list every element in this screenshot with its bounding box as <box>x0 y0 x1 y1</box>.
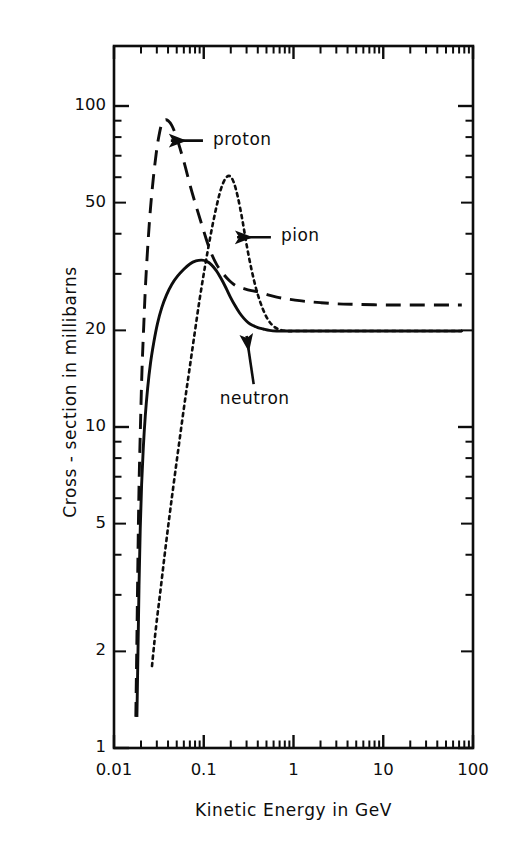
series-curve-neutron <box>137 260 462 717</box>
plot-area <box>0 0 519 860</box>
plot-frame <box>114 46 473 748</box>
series-curve-proton <box>136 120 462 717</box>
series-curve-pion <box>152 176 462 666</box>
figure-container: Cross - section in millibarns Kinetic En… <box>0 0 519 860</box>
annotation-arrow-neutron <box>247 336 254 384</box>
